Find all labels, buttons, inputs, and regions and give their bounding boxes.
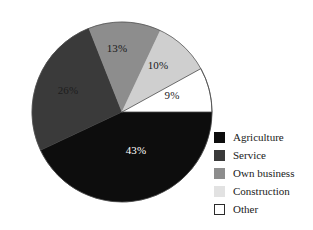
legend-item-other[interactable]: Other <box>214 200 313 218</box>
legend-swatch-icon <box>214 132 225 143</box>
legend-item-label: Other <box>233 204 258 215</box>
legend-swatch-icon <box>214 168 225 179</box>
legend-swatch-icon <box>214 150 225 161</box>
slice-label-other: 9% <box>165 89 180 101</box>
legend-item-label: Agriculture <box>233 132 284 143</box>
legend-item-label: Own business <box>233 168 294 179</box>
pie-chart: 43%26%13%10%9% AgricultureServiceOwn bus… <box>0 0 313 230</box>
legend-item-label: Construction <box>233 186 290 197</box>
legend-item-own-business[interactable]: Own business <box>214 164 313 182</box>
legend-item-service[interactable]: Service <box>214 146 313 164</box>
legend-swatch-icon <box>214 186 225 197</box>
legend-swatch-icon <box>214 204 225 215</box>
legend-item-agriculture[interactable]: Agriculture <box>214 128 313 146</box>
legend-item-construction[interactable]: Construction <box>214 182 313 200</box>
slice-label-own-business: 13% <box>107 42 127 54</box>
slice-label-service: 26% <box>58 84 78 96</box>
slice-label-construction: 10% <box>148 59 168 71</box>
legend-item-label: Service <box>233 150 266 161</box>
slice-label-agriculture: 43% <box>126 144 146 156</box>
chart-legend: AgricultureServiceOwn businessConstructi… <box>214 128 313 218</box>
